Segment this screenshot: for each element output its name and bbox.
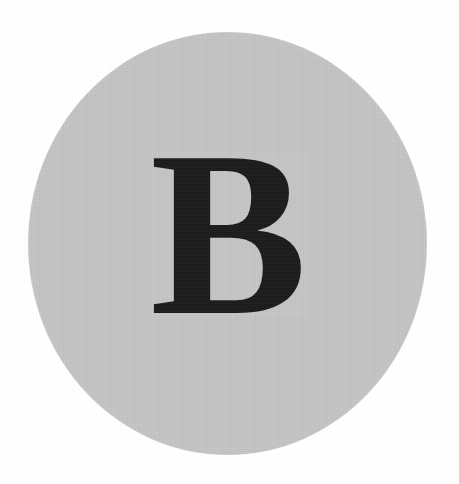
avatar-initial-letter: B — [150, 152, 306, 316]
avatar-canvas: B — [0, 0, 459, 484]
